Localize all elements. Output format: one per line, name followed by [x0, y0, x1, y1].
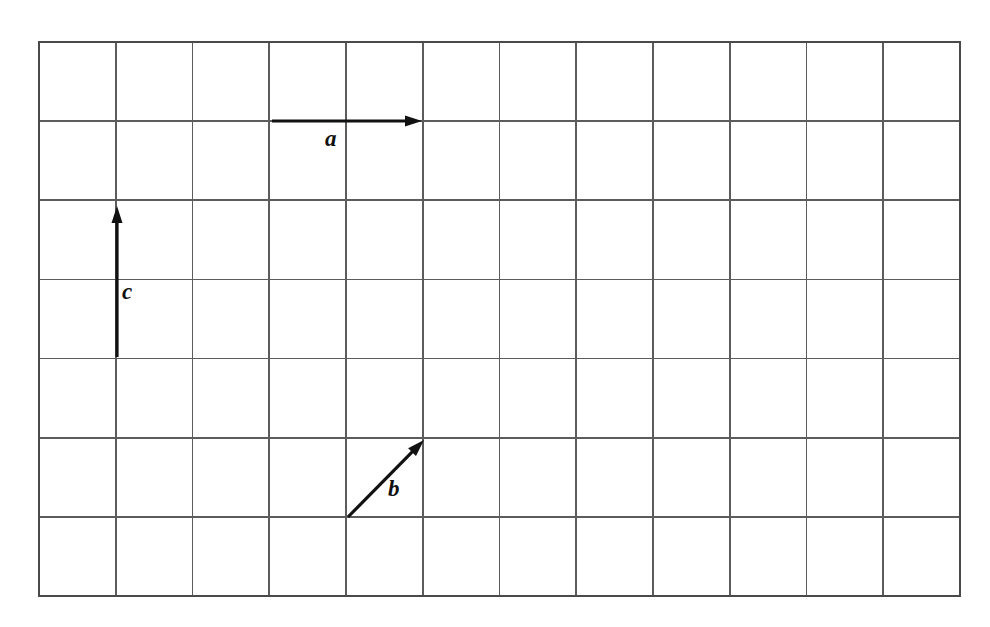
vector-label-b: b	[388, 477, 400, 500]
vector-label-c: c	[122, 280, 132, 303]
vector-a-arrowhead	[405, 116, 422, 127]
vector-grid-canvas	[0, 0, 990, 627]
vector-label-a: a	[325, 127, 337, 150]
grid-lines	[39, 42, 960, 596]
vector-c-arrowhead	[112, 206, 123, 223]
vector-b-shaft	[348, 450, 414, 517]
vector-grid-figure: abc	[0, 0, 990, 627]
vector-arrows	[112, 116, 425, 518]
